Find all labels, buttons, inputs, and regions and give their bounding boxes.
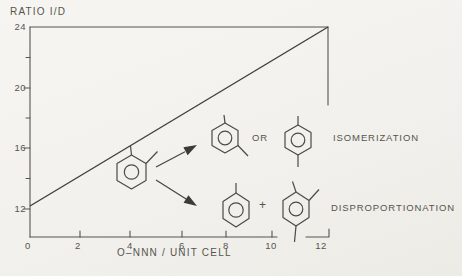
aromatic-circle [291, 133, 305, 147]
scanned-chart-figure: RATIO I/D 24 20 16 12 0 2 4 6 8 10 12 O–… [0, 0, 462, 276]
isomerization-arrow-icon [156, 145, 197, 167]
methyl-bond [295, 226, 297, 242]
y-axis-title: RATIO I/D [10, 7, 66, 17]
aromatic-circle [229, 203, 243, 217]
x-axis-label: O–NNN / UNIT CELL [117, 248, 232, 258]
arrow-head [183, 145, 197, 155]
disproportionation-arrow-icon [156, 180, 197, 206]
arrow-head [184, 195, 197, 206]
y-tick-label: 20 [6, 83, 26, 93]
y-minor-ticks [26, 58, 30, 179]
p-xylene-icon [285, 116, 311, 167]
o-xylene-icon [117, 146, 158, 189]
x-tick-label: 10 [261, 241, 281, 251]
y-tick-label: 24 [6, 22, 26, 32]
arrow-shaft [156, 180, 187, 199]
benzene-ring [285, 125, 311, 155]
aromatic-circle [289, 202, 303, 216]
methyl-bond [238, 146, 248, 157]
methyl-bond [293, 182, 297, 193]
y-tick-label: 12 [6, 204, 26, 214]
methyl-bond [309, 190, 319, 201]
trend-line [30, 27, 328, 206]
trend-line-segment [30, 27, 328, 206]
methyl-bond [146, 152, 158, 164]
plus-sign: + [259, 200, 266, 210]
toluene-icon [223, 183, 249, 227]
x-axis-broken-segment [306, 229, 329, 237]
y-tick-label: 16 [6, 143, 26, 153]
x-tick-label: 0 [18, 241, 38, 251]
benzene-ring [212, 123, 238, 153]
or-label: OR [252, 133, 268, 143]
benzene-ring [223, 193, 249, 227]
trimethylbenzene-icon [283, 182, 319, 243]
aromatic-circle [124, 165, 138, 179]
isomerization-label: ISOMERIZATION [333, 133, 419, 143]
arrow-shaft [156, 152, 185, 167]
m-xylene-icon [212, 115, 248, 156]
x-tick-label: 12 [311, 241, 331, 251]
benzene-ring [117, 155, 146, 189]
disproportionation-label: DISPROPORTIONATION [331, 203, 455, 213]
methyl-bond [131, 146, 132, 155]
methyl-bond [224, 115, 225, 123]
x-ticks [80, 231, 272, 237]
x-tick-label: 2 [68, 241, 88, 251]
benzene-ring [283, 192, 309, 226]
aromatic-circle [218, 131, 232, 145]
